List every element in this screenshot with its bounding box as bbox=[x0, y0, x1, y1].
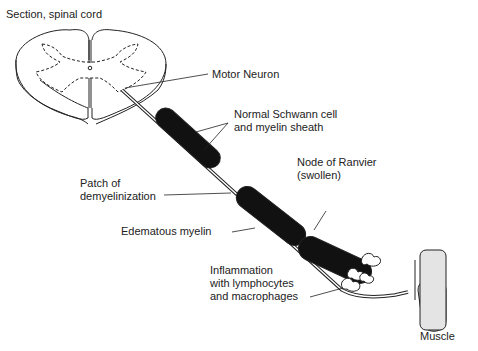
label-muscle: Muscle bbox=[420, 330, 455, 343]
label-schwann-1: Normal Schwann cell bbox=[234, 108, 337, 121]
label-inflam-3: and macrophages bbox=[210, 290, 298, 303]
label-patch-1: Patch of bbox=[80, 177, 120, 190]
label-schwann-2: and myelin sheath bbox=[234, 121, 323, 134]
label-inflam-2: with lymphocytes bbox=[210, 277, 294, 290]
section-title: Section, spinal cord bbox=[6, 8, 102, 21]
label-ranvier-2: (swollen) bbox=[297, 169, 341, 182]
label-edematous: Edematous myelin bbox=[121, 225, 212, 238]
label-motor-neuron: Motor Neuron bbox=[212, 68, 279, 81]
label-patch-2: demyelinization bbox=[80, 190, 156, 203]
muscle-bundle bbox=[415, 250, 446, 331]
label-inflam-1: Inflammation bbox=[210, 264, 273, 277]
label-ranvier-1: Node of Ranvier bbox=[297, 156, 377, 169]
